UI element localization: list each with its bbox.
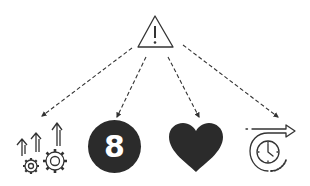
warning-triangle-icon xyxy=(138,16,173,47)
clock-forward-icon xyxy=(246,125,295,171)
heart-icon xyxy=(169,123,223,172)
edge-to-heart xyxy=(168,57,199,117)
edge-to-growth xyxy=(42,48,132,116)
edges xyxy=(42,45,278,117)
edge-to-eight xyxy=(117,57,146,117)
growth-gears-icon xyxy=(17,123,67,174)
number-eight-label: 8 xyxy=(104,129,125,164)
edge-to-clock xyxy=(183,45,278,117)
diagram-canvas: 8 xyxy=(0,0,310,186)
number-eight-circle-icon: 8 xyxy=(88,120,141,173)
